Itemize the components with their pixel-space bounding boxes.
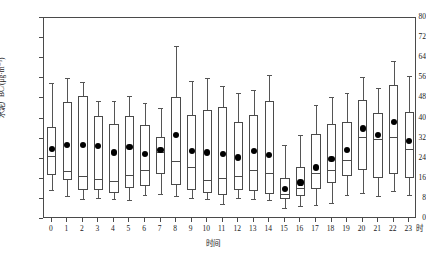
x-axis-tick-label: 19 xyxy=(342,225,350,233)
x-axis-tick-mark xyxy=(144,218,145,222)
x-axis-tick-mark xyxy=(299,218,300,222)
boxplot-box xyxy=(44,18,417,219)
x-axis-tick-label: 13 xyxy=(249,225,257,233)
x-axis-tick-mark xyxy=(377,218,378,222)
whisker-cap-lower xyxy=(407,195,412,196)
x-axis-tick-label: 3 xyxy=(96,225,100,233)
x-axis-tick-label: 14 xyxy=(265,225,273,233)
x-axis-tick-label: 22 xyxy=(389,225,397,233)
boxplot-chart: 水泥厂BC/(μg·m⁻³) 08162432404856647280 0123… xyxy=(0,0,426,262)
x-axis-unit-label: 时 xyxy=(416,225,423,233)
x-axis-tick-label: 4 xyxy=(111,225,115,233)
x-axis-tick-label: 11 xyxy=(218,225,225,233)
y-axis-title: 水泥厂BC/(μg·m⁻³) xyxy=(0,58,6,118)
x-axis-tick-mark xyxy=(97,218,98,222)
x-axis-tick-mark xyxy=(268,218,269,222)
x-axis-tick-mark xyxy=(331,218,332,222)
x-axis-tick-label: 12 xyxy=(234,225,242,233)
plot-area xyxy=(43,17,416,218)
x-axis-tick-mark xyxy=(253,218,254,222)
x-axis-tick-label: 23 xyxy=(404,225,412,233)
x-axis-tick-mark xyxy=(346,218,347,222)
x-axis-tick-label: 9 xyxy=(189,225,193,233)
x-axis-tick-mark xyxy=(206,218,207,222)
whisker-upper xyxy=(409,76,410,112)
x-axis-tick-label: 0 xyxy=(49,225,53,233)
x-axis-tick-label: 15 xyxy=(280,225,288,233)
x-axis-tick-mark xyxy=(315,218,316,222)
x-axis-tick-mark xyxy=(82,218,83,222)
median-line xyxy=(405,149,414,150)
x-axis-tick-label: 7 xyxy=(158,225,162,233)
x-axis-tick-mark xyxy=(393,218,394,222)
x-axis-tick-label: 8 xyxy=(173,225,177,233)
x-axis-tick-mark xyxy=(284,218,285,222)
x-axis-tick-label: 1 xyxy=(64,225,68,233)
whisker-cap-upper xyxy=(407,76,412,77)
x-axis-tick-label: 21 xyxy=(373,225,381,233)
x-axis-tick-label: 20 xyxy=(358,225,366,233)
x-axis-tick-mark xyxy=(128,218,129,222)
x-axis-tick-label: 10 xyxy=(202,225,210,233)
x-axis-tick-label: 16 xyxy=(296,225,304,233)
x-axis-tick-label: 5 xyxy=(127,225,131,233)
x-axis-tick-mark xyxy=(160,218,161,222)
x-axis-tick-mark xyxy=(237,218,238,222)
x-axis-tick-mark xyxy=(175,218,176,222)
x-axis-title: 时间 xyxy=(0,240,426,248)
x-axis-tick-mark xyxy=(222,218,223,222)
x-axis-tick-label: 18 xyxy=(327,225,335,233)
x-axis-tick-mark xyxy=(191,218,192,222)
x-axis-tick-mark xyxy=(51,218,52,222)
x-axis-tick-mark xyxy=(362,218,363,222)
x-axis-tick-label: 17 xyxy=(311,225,319,233)
x-axis-tick-mark xyxy=(113,218,114,222)
box-iqr-rect xyxy=(405,112,414,177)
x-axis-tick-label: 6 xyxy=(142,225,146,233)
x-axis-tick-mark xyxy=(408,218,409,222)
whisker-lower xyxy=(409,178,410,196)
x-axis-tick-mark xyxy=(66,218,67,222)
y-axis-tick-mark xyxy=(39,218,43,219)
x-axis-tick-label: 2 xyxy=(80,225,84,233)
